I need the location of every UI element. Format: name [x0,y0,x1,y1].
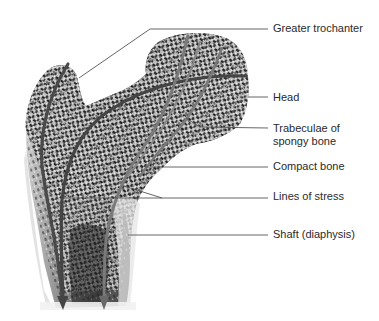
label-shaft: Shaft (diaphysis) [273,228,355,241]
label-lines-of-stress-text: Lines of stress [273,190,344,202]
label-trabeculae-line1: Trabeculae of [273,122,340,135]
label-head: Head [273,91,299,104]
label-trabeculae-line2: spongy bone [273,135,340,148]
label-greater-trochanter-text: Greater trochanter [273,22,363,34]
label-head-text: Head [273,91,299,103]
label-compact-bone-text: Compact bone [273,160,345,172]
label-lines-of-stress: Lines of stress [273,190,344,203]
label-greater-trochanter: Greater trochanter [273,22,363,35]
label-shaft-text: Shaft (diaphysis) [273,228,355,240]
label-trabeculae: Trabeculae of spongy bone [273,122,340,148]
label-compact-bone: Compact bone [273,160,345,173]
